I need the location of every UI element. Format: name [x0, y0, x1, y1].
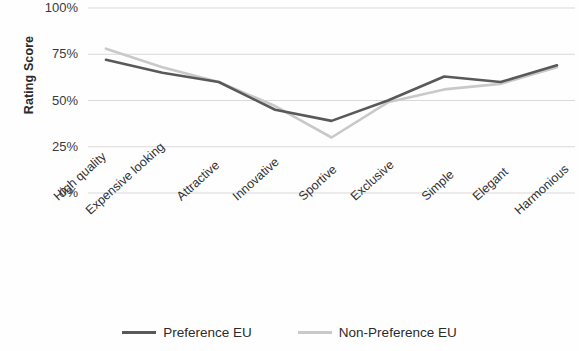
legend-label: Preference EU	[163, 326, 252, 340]
legend-item[interactable]: Preference EU	[122, 326, 252, 340]
legend-item[interactable]: Non-Preference EU	[298, 326, 457, 340]
y-axis-tick-label: 50%	[24, 94, 78, 107]
y-axis-tick-label: 100%	[24, 1, 78, 14]
legend-line-swatch-icon	[298, 331, 332, 334]
y-axis-tick-label: 25%	[24, 140, 78, 153]
y-axis-tick-labels: 100%75%50%25%0%	[22, 0, 78, 200]
x-axis-tick-labels: High qualityExpensive lookingAttractiveI…	[88, 193, 575, 293]
series-line-2	[106, 49, 557, 138]
series-lines	[106, 49, 557, 138]
legend-line-swatch-icon	[122, 331, 156, 334]
legend-label: Non-Preference EU	[339, 326, 457, 340]
y-axis-tick-label: 75%	[24, 47, 78, 60]
line-chart: Rating Score 100%75%50%25%0% High qualit…	[0, 0, 579, 351]
chart-legend: Preference EUNon-Preference EU	[0, 326, 579, 340]
